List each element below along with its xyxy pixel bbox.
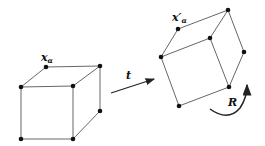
translation-arrow xyxy=(111,79,154,93)
translation-label: t xyxy=(126,69,131,82)
original-cube xyxy=(19,64,103,142)
x-alpha-label: xα xyxy=(40,51,54,65)
rotation-label: R xyxy=(227,96,237,109)
rigid-transform-diagram: xα t x′α R xyxy=(0,0,265,146)
x-alpha-prime-label: x′α xyxy=(171,11,187,25)
